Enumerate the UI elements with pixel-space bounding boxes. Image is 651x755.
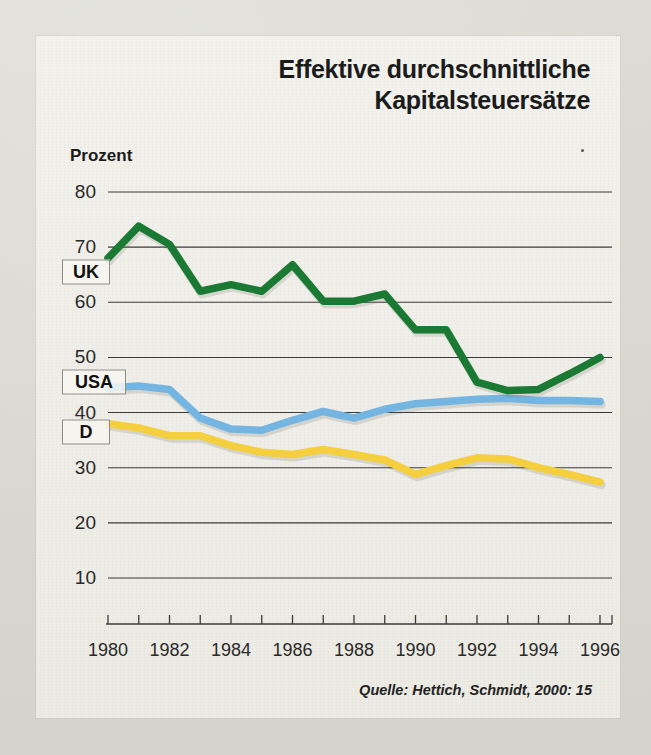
series-shadow-UK (110, 229, 602, 393)
y-axis-tick-label: 10 (52, 567, 96, 589)
series-label-d: D (62, 419, 110, 444)
y-axis-tick-label: 50 (52, 346, 96, 368)
y-axis-tick-label: 20 (52, 512, 96, 534)
y-axis-label: Prozent (70, 146, 132, 166)
title-dot-mark (581, 149, 584, 152)
y-axis-tick-label: 70 (52, 236, 96, 258)
x-axis-tick-label: 1992 (457, 640, 497, 661)
series-label-uk: UK (62, 259, 110, 284)
series-line-D (108, 424, 600, 482)
chart-panel: Effektive durchschnittliche Kapitalsteue… (36, 36, 620, 718)
x-axis-tick-label: 1990 (395, 640, 435, 661)
page-background: Effektive durchschnittliche Kapitalsteue… (0, 0, 651, 755)
y-axis-tick-label: 80 (52, 181, 96, 203)
x-axis-tick-label: 1994 (518, 640, 558, 661)
x-axis-tick-label: 1984 (211, 640, 251, 661)
x-axis-tick-label: 1982 (149, 640, 189, 661)
series-line-UK (108, 226, 600, 390)
source-note: Quelle: Hettich, Schmidt, 2000: 15 (359, 682, 592, 698)
x-axis-tick-label: 1988 (334, 640, 374, 661)
chart-title-line-2: Kapitalsteuersätze (160, 85, 590, 116)
x-axis-tick-label: 1986 (272, 640, 312, 661)
x-axis-tick-label: 1996 (580, 640, 620, 661)
chart-title-line-1: Effektive durchschnittliche (160, 54, 590, 85)
series-label-usa: USA (62, 370, 126, 395)
y-axis-tick-label: 60 (52, 291, 96, 313)
chart-title: Effektive durchschnittliche Kapitalsteue… (160, 54, 590, 116)
y-axis-tick-label: 30 (52, 457, 96, 479)
x-axis-tick-label: 1980 (88, 640, 128, 661)
